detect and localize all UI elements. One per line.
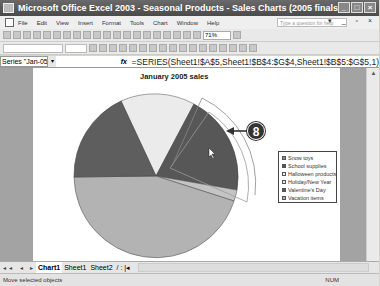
legend-item: Valentine's Day: [282, 186, 336, 194]
status-bar: Move selected objects NUM: [0, 273, 379, 286]
chart-legend[interactable]: Snow toys School supplies Halloween prod…: [278, 151, 337, 203]
sheet-nav-buttons[interactable]: ◂◂ ◂ ▸ ▸▸: [0, 264, 36, 271]
legend-swatch: [282, 164, 286, 168]
status-message: Move selected objects: [3, 277, 62, 283]
step-callout-badge: 8: [247, 122, 265, 140]
chart-title[interactable]: January 2005 sales: [140, 72, 208, 81]
num-lock-indicator: NUM: [325, 274, 339, 286]
legend-swatch: [282, 180, 286, 184]
tab-sheet2[interactable]: Sheet2: [88, 262, 114, 273]
sheet-tab-bar: ◂◂ ◂ ▸ ▸▸ Chart1 Sheet1 Sheet2 / : |◂: [0, 261, 379, 273]
tab-sheet1[interactable]: Sheet1: [62, 262, 88, 273]
legend-item: Halloween products: [282, 170, 336, 178]
legend-swatch: [282, 196, 286, 200]
legend-item: Vacation items: [282, 194, 336, 202]
legend-item: Snow toys: [282, 154, 336, 162]
legend-swatch: [282, 188, 286, 192]
legend-swatch: [282, 172, 286, 176]
horizontal-scrollbar[interactable]: [138, 263, 369, 272]
tab-chart1[interactable]: Chart1: [36, 262, 62, 273]
legend-swatch: [282, 156, 286, 160]
legend-item: School supplies: [282, 162, 336, 170]
legend-item: Holiday/New Year: [282, 178, 336, 186]
tab-more[interactable]: / : |◂: [115, 262, 133, 273]
